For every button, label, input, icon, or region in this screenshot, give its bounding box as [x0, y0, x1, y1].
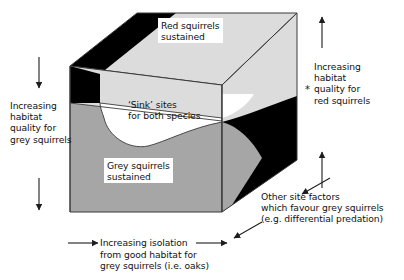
figure-canvas: Red squirrels sustained ‘Sink’ sites for… — [0, 0, 404, 280]
left-axis-label: Increasing habitat quality for grey squi… — [10, 100, 71, 145]
cube-front-face — [70, 66, 222, 213]
grey-squirrels-sustained-label: Grey squirrels sustained — [104, 158, 173, 183]
asterisk-marker: * — [305, 84, 310, 95]
depth-arrow-lower — [234, 222, 262, 238]
right-axis-label: Increasing habitat quality for red squir… — [314, 61, 370, 106]
red-squirrels-sustained-label: Red squirrels sustained — [158, 18, 223, 43]
bottom-axis-label-line1: Increasing isolation — [100, 237, 188, 248]
bottom-axis-label-rest: from good habitat for grey squirrels (i.… — [100, 249, 209, 271]
sink-sites-label: ‘Sink’ sites for both species — [128, 99, 200, 121]
depth-axis-label: Other site factors which favour grey squ… — [261, 191, 384, 225]
